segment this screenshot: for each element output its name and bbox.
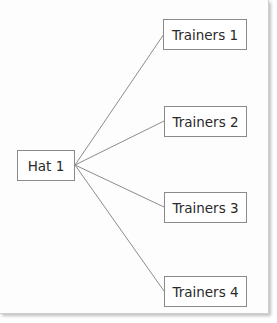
child-label: Trainers 2 xyxy=(172,114,238,130)
child-node-1: Trainers 1 xyxy=(163,19,247,50)
child-label: Trainers 1 xyxy=(172,27,238,43)
child-node-3: Trainers 3 xyxy=(164,192,247,223)
root-node: Hat 1 xyxy=(17,150,75,181)
child-node-4: Trainers 4 xyxy=(164,276,247,307)
child-label: Trainers 3 xyxy=(172,200,238,216)
child-node-2: Trainers 2 xyxy=(164,106,247,137)
child-label: Trainers 4 xyxy=(172,284,238,300)
root-label: Hat 1 xyxy=(28,158,65,174)
